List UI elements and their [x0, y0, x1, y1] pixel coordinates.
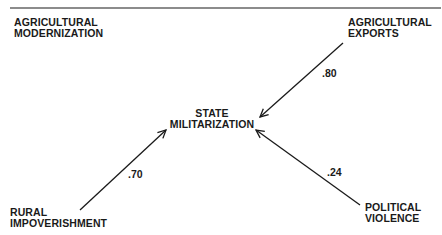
node-label-line: IMPOVERISHMENT: [10, 218, 107, 229]
arrow-violence-to-militarization: [256, 130, 360, 205]
arrow-impoverishment-to-militarization: [80, 130, 166, 210]
path-diagram: AGRICULTURAL MODERNIZATION AGRICULTURAL …: [0, 0, 442, 235]
node-label-line: EXPORTS: [348, 28, 432, 39]
coefficient-impoverishment: .70: [128, 169, 143, 180]
node-state-militarization: STATE MILITARIZATION: [166, 108, 258, 130]
node-label-line: VIOLENCE: [365, 213, 421, 224]
node-rural-impoverishment: RURAL IMPOVERISHMENT: [10, 207, 107, 229]
node-political-violence: POLITICAL VIOLENCE: [365, 202, 421, 224]
arrow-exports-to-militarization: [260, 43, 343, 117]
node-label-line: MODERNIZATION: [14, 28, 103, 39]
node-agricultural-exports: AGRICULTURAL EXPORTS: [348, 17, 432, 39]
coefficient-violence: .24: [327, 167, 342, 178]
node-label-line: MILITARIZATION: [166, 119, 258, 130]
coefficient-exports: .80: [322, 68, 337, 79]
node-agricultural-modernization: AGRICULTURAL MODERNIZATION: [14, 17, 103, 39]
